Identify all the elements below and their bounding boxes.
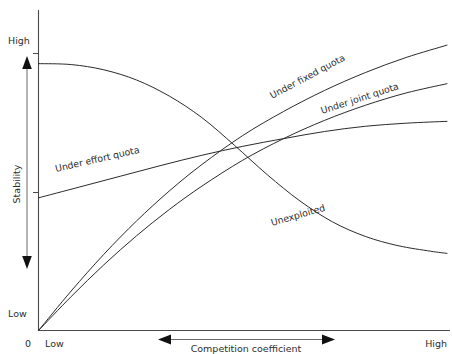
x-axis-high-label: High (425, 338, 447, 349)
x-axis-title: Competition coefficient (191, 343, 302, 354)
chart-figure: High Low Stability 0 Low High Competitio… (0, 0, 452, 354)
origin-label: 0 (25, 338, 31, 349)
y-axis-low-label: Low (8, 308, 27, 319)
curve-label-unexploited: Unexploited (270, 202, 327, 228)
y-axis-arrow (22, 56, 32, 269)
curve-label-under-fixed-quota: Under fixed quota (268, 52, 347, 101)
x-axis-low-label: Low (45, 338, 64, 349)
y-axis-high-label: High (8, 35, 30, 46)
curve-under-joint-quota (39, 84, 448, 331)
chart-svg: High Low Stability 0 Low High Competitio… (0, 0, 452, 354)
y-axis-title: Stability (11, 164, 22, 203)
curve-label-under-effort-quota: Under effort quota (54, 144, 140, 174)
